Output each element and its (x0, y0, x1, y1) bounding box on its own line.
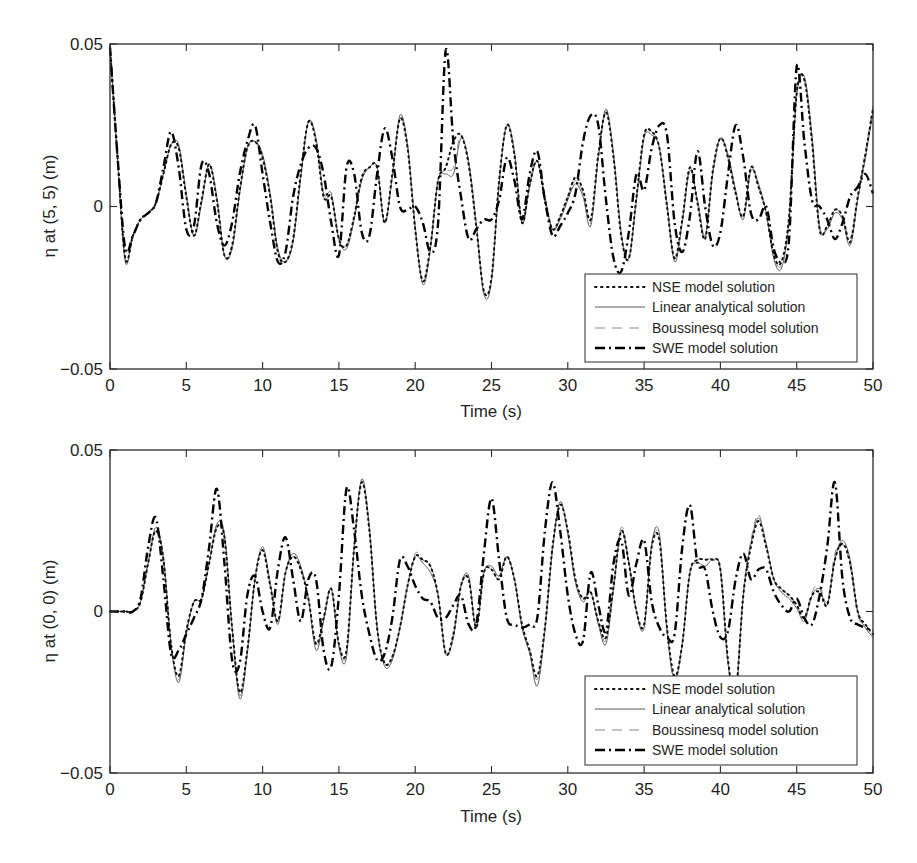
legend-label-swe: SWE model solution (652, 742, 778, 758)
legend-label-swe: SWE model solution (652, 340, 778, 356)
x-tick-label: 20 (406, 376, 425, 395)
x-tick-label: 35 (635, 780, 654, 799)
legend-label-nse: NSE model solution (652, 681, 775, 697)
ytick-label-bottom-min: −0.05 (60, 764, 103, 783)
x-tick-label: 45 (787, 780, 806, 799)
x-tick-label: 10 (253, 376, 272, 395)
ytick-label-top-min: −0.05 (60, 360, 103, 379)
x-tick-label: 40 (711, 376, 730, 395)
series-swe-model-solution (110, 482, 873, 672)
x-tick-label: 25 (482, 780, 501, 799)
series-layer-top (110, 47, 873, 299)
x-tick-label: 50 (864, 780, 883, 799)
x-tick-label: 35 (635, 376, 654, 395)
series-nse-model-solution (110, 482, 873, 695)
legend-label-boussinesq: Boussinesq model solution (652, 320, 819, 336)
xlabel-top: Time (s) (460, 402, 522, 421)
panel-bottom: 0.05 0 −0.05 05101520253035404550 Time (… (40, 441, 882, 826)
ytick-label-bottom-max: 0.05 (70, 441, 103, 460)
xlabel-bottom: Time (s) (460, 807, 522, 826)
series-swe-model-solution (110, 47, 873, 273)
x-tick-label: 15 (329, 780, 348, 799)
panel-top: 0.05 0 −0.05 05101520253035404550 Time (… (40, 35, 882, 421)
x-tick-label: 5 (182, 780, 191, 799)
x-tick-label: 50 (864, 376, 883, 395)
legend-label-boussinesq: Boussinesq model solution (652, 722, 819, 738)
ytick-label-top-max: 0.05 (70, 35, 103, 54)
xtick-labels-top: 05101520253035404550 (105, 376, 882, 395)
x-tick-label: 45 (787, 376, 806, 395)
series-linear-analytical-solution (110, 479, 873, 699)
series-boussinesq-model-solution (110, 47, 873, 295)
x-tick-label: 5 (182, 376, 191, 395)
ylabel-bottom: η at (0, 0) (m) (40, 560, 59, 663)
x-tick-label: 25 (482, 376, 501, 395)
legend-label-nse: NSE model solution (652, 279, 775, 295)
x-tick-label: 0 (105, 376, 114, 395)
x-tick-label: 15 (329, 376, 348, 395)
legend-label-linear: Linear analytical solution (652, 701, 805, 717)
x-tick-label: 20 (406, 780, 425, 799)
x-tick-label: 10 (253, 780, 272, 799)
x-tick-label: 0 (105, 780, 114, 799)
legend-bottom: NSE model solution Linear analytical sol… (585, 676, 857, 765)
series-layer-bottom (110, 479, 873, 699)
x-tick-label: 30 (558, 376, 577, 395)
figure-canvas: 0.05 0 −0.05 05101520253035404550 Time (… (0, 0, 917, 863)
ylabel-top: η at (5, 5) (m) (40, 155, 59, 258)
ytick-label-top-zero: 0 (94, 197, 103, 216)
figure: 0.05 0 −0.05 05101520253035404550 Time (… (0, 0, 917, 863)
x-tick-label: 30 (558, 780, 577, 799)
legend-label-linear: Linear analytical solution (652, 299, 805, 315)
legend-top: NSE model solution Linear analytical sol… (585, 274, 857, 362)
ytick-label-bottom-zero: 0 (94, 602, 103, 621)
series-boussinesq-model-solution (110, 482, 873, 696)
series-nse-model-solution (110, 47, 873, 295)
series-linear-analytical-solution (110, 47, 873, 299)
x-tick-label: 40 (711, 780, 730, 799)
xtick-labels-bottom: 05101520253035404550 (105, 780, 882, 799)
